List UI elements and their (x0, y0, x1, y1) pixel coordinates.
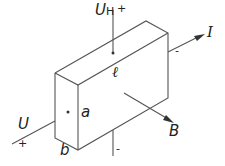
diagram-lines (0, 0, 225, 166)
hall-effect-diagram: UH + - I - ℓ a b B U + (0, 0, 225, 166)
field-label: B (169, 124, 179, 139)
voltage-label: U (18, 117, 29, 132)
hall-plus-sign: + (117, 3, 126, 14)
voltage-plus-sign: + (18, 138, 27, 149)
field-arrow-line (124, 93, 168, 119)
height-label: a (81, 105, 90, 120)
thickness-label: b (60, 143, 70, 158)
hall-voltage-label: UH (95, 3, 114, 18)
current-label: I (207, 25, 213, 40)
current-minus-sign: - (175, 45, 179, 56)
length-label: ℓ (112, 65, 118, 80)
current-arrowhead (194, 34, 205, 41)
box-outline (55, 21, 168, 150)
current-lead (168, 36, 200, 52)
hall-minus-sign: - (116, 143, 120, 154)
